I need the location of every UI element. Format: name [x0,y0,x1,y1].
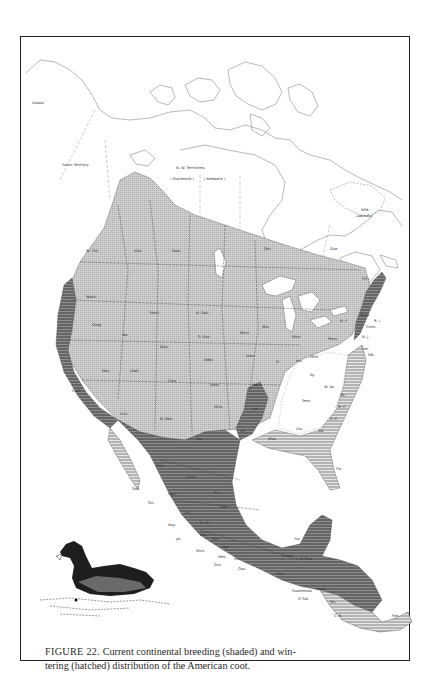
svg-text:Okla.: Okla. [214,405,223,409]
svg-text:Guatemala: Guatemala [292,589,312,593]
svg-text:Mo.: Mo. [252,383,258,387]
svg-text:Ohio: Ohio [310,355,318,359]
svg-text:Conn.: Conn. [366,325,376,329]
svg-text:S.L.P.: S.L.P. [200,521,210,525]
svg-text:W. Va.: W. Va. [324,385,335,389]
svg-text:Oax.: Oax. [238,567,246,571]
svg-text:S. Dak.: S. Dak. [198,335,211,339]
svg-text:Minn.: Minn. [240,331,250,335]
svg-text:Tex.: Tex. [195,437,203,441]
svg-text:Sask.: Sask. [172,249,182,253]
svg-text:Coah.: Coah. [186,475,196,479]
svg-text:R. I.: R. I. [374,319,381,323]
svg-text:Va.: Va. [340,393,346,397]
svg-text:Tam.: Tam. [219,505,228,509]
svg-text:Nfld.: Nfld. [361,208,369,212]
svg-text:Mich.: Mich. [196,549,206,553]
svg-text:Yukon Territory: Yukon Territory [62,163,89,167]
svg-text:Fla.: Fla. [336,467,342,471]
svg-text:C. R.: C. R. [334,614,342,618]
caption-line-1: FIGURE 22. Current continental breeding … [45,645,375,659]
svg-text:Ida.: Ida. [122,333,129,337]
svg-text:Mont.: Mont. [150,311,160,315]
svg-text:Kans.: Kans. [210,383,220,387]
svg-text:Gro.: Gro. [214,563,221,567]
svg-text:Chih.: Chih. [156,464,165,468]
svg-text:Calif.: Calif. [72,389,81,393]
svg-text:Ill.: Ill. [276,360,280,364]
svg-text:Md.: Md. [368,353,375,357]
svg-text:Oreg.: Oreg. [92,323,102,327]
svg-text:Mex.: Mex. [218,555,227,559]
svg-text:Yuc.: Yuc. [294,537,301,541]
svg-text:Mich.: Mich. [292,335,302,339]
svg-text:Labrador: Labrador [356,214,373,218]
svg-text:Ark.: Ark. [252,407,259,411]
svg-text:Nic.: Nic. [330,600,337,604]
svg-text:Wyo.: Wyo. [160,345,169,349]
svg-text:El Sal.: El Sal. [298,597,309,601]
figure-caption: FIGURE 22. Current continental breeding … [45,645,375,672]
svg-text:Jal.: Jal. [175,537,181,541]
svg-text:Nay.: Nay. [168,523,176,527]
svg-text:Ga.: Ga. [318,429,324,433]
range-map: Alaska Yukon Territory N. W. Territories… [0,0,434,640]
svg-text:Wash.: Wash. [86,295,97,299]
figure-number: FIGURE 22. [45,646,100,657]
svg-text:Alta.: Alta. [134,249,142,253]
svg-text:Wis.: Wis. [262,325,270,329]
svg-text:Gto.: Gto. [200,533,207,537]
svg-text:La.: La. [240,429,245,433]
svg-text:Ont.: Ont. [264,247,272,251]
svg-text:Utah: Utah [130,369,139,373]
svg-text:Mass.: Mass. [360,313,370,317]
caption-line-2: tering (hatched) distribution of the Ame… [45,659,375,673]
svg-text:N. C.: N. C. [338,405,347,409]
svg-text:Nev.: Nev. [102,369,110,373]
svg-text:Br. Col.: Br. Col. [86,249,99,253]
svg-text:Tenn.: Tenn. [301,399,312,403]
svg-text:Iowa: Iowa [246,354,254,358]
svg-text:Q. Roo: Q. Roo [300,557,312,561]
svg-text:Sin.: Sin. [148,501,155,505]
svg-text:Pan.: Pan. [392,614,400,618]
svg-text:Ky.: Ky. [310,373,315,377]
svg-text:N. J.: N. J. [362,335,369,339]
svg-text:N. Mex.: N. Mex. [160,417,174,421]
svg-text:Ariz.: Ariz. [120,412,128,416]
svg-text:Son.: Son. [132,487,140,491]
svg-text:N. W. Territories: N. W. Territories [176,166,204,170]
svg-text:N. Dak.: N. Dak. [196,311,209,315]
svg-text:( Mackenzie ): ( Mackenzie ) [170,177,195,181]
svg-text:Nebr.: Nebr. [204,358,213,362]
svg-text:N. L.: N. L. [214,491,222,495]
svg-text:N. Y.: N. Y. [340,319,348,323]
coot-illustration [40,541,170,616]
svg-text:Camp.: Camp. [282,554,294,558]
svg-text:Qro.: Qro. [212,537,220,541]
svg-text:S. C.: S. C. [330,417,338,421]
svg-text:Colo.: Colo. [168,379,177,383]
svg-text:P.E.I.: P.E.I. [362,277,370,281]
svg-text:Del.: Del. [362,347,369,351]
svg-text:Hgo.: Hgo. [222,545,230,549]
svg-text:Ala.: Ala. [296,427,303,431]
svg-text:Alaska: Alaska [32,101,44,105]
svg-text:Dgo.: Dgo. [168,492,176,496]
svg-text:Ind.: Ind. [296,359,303,363]
svg-text:Penn.: Penn. [328,337,338,341]
svg-text:Que.: Que. [330,247,338,251]
svg-text:Chis.: Chis. [276,572,285,576]
svg-text:Miss.: Miss. [268,437,277,441]
svg-text:( Keewatin ): ( Keewatin ) [204,177,226,181]
svg-text:Hond.: Hond. [316,587,327,591]
svg-text:Ver.: Ver. [234,557,241,561]
mexico-range [118,420,382,612]
svg-text:Zac.: Zac. [184,511,192,515]
